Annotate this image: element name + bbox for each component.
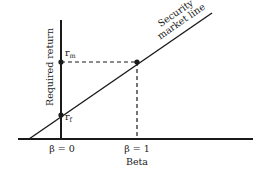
rm-label: rm [65,47,76,60]
beta0-label: β = 0 [49,143,75,154]
security-market-line [29,13,212,139]
sml-label-group: Security market line [149,0,207,41]
y-axis-label: Required return [44,28,55,106]
market-point [134,59,139,64]
rf-label: rf [65,111,73,124]
beta1-label: β = 1 [124,143,150,154]
rm-label-subscript: m [70,52,76,60]
rm-point [58,59,63,64]
rf-label-subscript: f [70,116,73,124]
rf-point [58,112,63,117]
x-axis-label: Beta [126,156,148,167]
sml-diagram: Required return rm rf β = 0 β = 1 Beta S… [0,0,264,177]
